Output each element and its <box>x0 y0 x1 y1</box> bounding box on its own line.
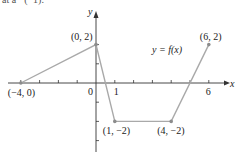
y-axis-label: y <box>87 6 93 17</box>
data-point <box>19 81 23 85</box>
x-axis-label: x <box>229 78 235 89</box>
function-graph: yx016(−4, 0)(0, 2)(1, −2)(4, −2)(6, 2)y … <box>0 0 237 158</box>
x-tick-label: 0 <box>88 86 93 97</box>
data-point <box>94 43 98 47</box>
data-point <box>113 120 117 124</box>
y-axis-arrow-icon <box>94 11 99 18</box>
point-annotation: (4, −2) <box>157 125 184 137</box>
point-annotation: (6, 2) <box>200 31 222 43</box>
point-annotation: (−4, 0) <box>8 87 35 99</box>
data-point <box>169 120 173 124</box>
x-tick-label: 1 <box>114 86 119 97</box>
point-annotation: (1, −2) <box>103 125 130 137</box>
x-tick-label: 6 <box>206 86 211 97</box>
data-point <box>207 43 211 47</box>
point-annotation: (0, 2) <box>71 31 93 43</box>
function-label: y = f(x) <box>151 44 183 56</box>
